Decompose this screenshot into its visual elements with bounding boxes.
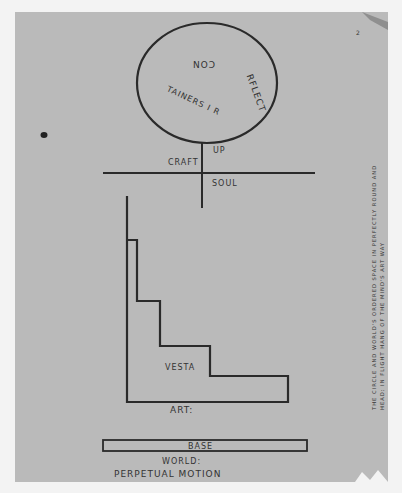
- staircase-shape: [127, 196, 288, 402]
- up-label: UP: [213, 146, 226, 155]
- vesta-label: VESTA: [165, 363, 195, 372]
- circle-inscription-top: CON: [192, 59, 215, 69]
- circle-inscription-bottom: TAINERS I R: [165, 84, 222, 117]
- circle-inscription-right: RFLECT: [245, 73, 268, 114]
- sketch-diagram: CON RFLECT TAINERS I R UP CRAFT SOUL VES…: [0, 0, 402, 493]
- soul-label: SOUL: [212, 179, 238, 188]
- base-label: BASE: [188, 442, 213, 451]
- margin-note-line2: HEAD: IN FLIGHT HANG OF THE MIND'S ART W…: [379, 242, 385, 410]
- torn-corner-bottom-right: [355, 470, 388, 482]
- perpetual-motion-label: PERPETUAL MOTION: [114, 469, 221, 479]
- art-label: ART:: [170, 405, 193, 415]
- page-number: 2: [356, 29, 361, 36]
- craft-label: CRAFT: [168, 158, 199, 167]
- torn-corner-top-right: [362, 12, 388, 30]
- world-label: WORLD:: [162, 457, 201, 466]
- ink-blot-mark: [41, 132, 48, 138]
- margin-note-line1: THE CIRCLE AND WORLD'S ORDERED SPACE IN …: [371, 165, 377, 411]
